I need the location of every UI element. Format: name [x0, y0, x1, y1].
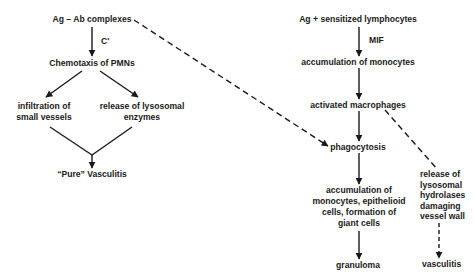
node-accumulation-monocytes: accumulation of monocytes [301, 57, 415, 68]
node-ag-sensitized-lymphocytes: Ag + sensitized lymphocytes [299, 14, 417, 25]
edge-label-mif: MIF [369, 35, 384, 46]
node-accumulation-giant-cells: accumulation of monocytes, epithelioid c… [312, 185, 405, 229]
node-release-lysosomal-enzymes: release of lysosomal enzymes [100, 101, 185, 123]
arrow-chemotaxis-to-infiltration [46, 71, 82, 97]
node-activated-macrophages: activated macrophages [310, 100, 406, 111]
node-chemotaxis-pmns: Chemotaxis of PMNs [49, 58, 134, 69]
node-pure-vasculitis: “Pure” Vasculitis [57, 169, 127, 180]
node-infiltration-small-vessels: infiltration of small vessels [16, 101, 71, 123]
line-release-enzymes-to-merge [92, 127, 132, 155]
node-phagocytosis: phagocytosis [330, 142, 385, 153]
diagram-edges [0, 0, 474, 278]
node-ag-ab-complexes: Ag – Ab complexes [53, 14, 132, 25]
dashed-arrow-agab-to-phagocytosis [134, 20, 328, 146]
dashed-line-macrophages-to-hydrolases [385, 110, 438, 170]
line-infiltration-to-merge [50, 127, 92, 155]
arrow-chemotaxis-to-release-enzymes [100, 71, 138, 97]
pathogenesis-diagram: Ag – Ab complexes C′ Chemotaxis of PMNs … [0, 0, 474, 278]
node-vasculitis: vasculitis [422, 259, 461, 270]
edge-label-complement: C′ [101, 36, 109, 47]
node-granuloma: granuloma [336, 260, 380, 271]
node-release-lysosomal-hydrolases: release of lysosomal hydrolases damaging… [420, 169, 465, 222]
